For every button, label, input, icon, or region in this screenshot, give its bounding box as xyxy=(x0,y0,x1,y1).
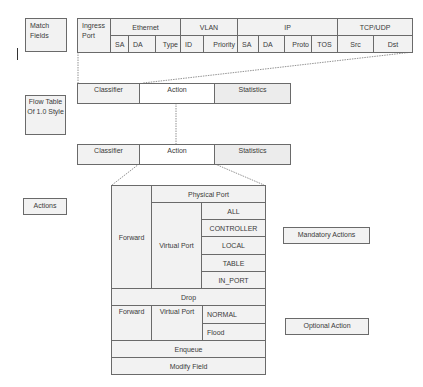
field-text: DA xyxy=(263,41,273,48)
flow-table-2-statistics: Statistics xyxy=(214,144,291,165)
match-field-ip-sa: SA xyxy=(237,35,259,53)
forward-text: Forward xyxy=(119,234,145,241)
ingress-port-text: Ingress Port xyxy=(82,21,110,41)
match-field-vlan-id: ID xyxy=(180,35,204,53)
actions-text: Actions xyxy=(34,202,57,209)
field-text: Priority xyxy=(213,41,235,48)
optional-action-text: Optional Action xyxy=(303,322,350,329)
virtual-port-option-text: Flood xyxy=(207,329,225,336)
field-text: Proto xyxy=(292,41,309,48)
field-text: SA xyxy=(242,41,251,48)
action-text: Action xyxy=(167,147,186,154)
classifier-text: Classifier xyxy=(94,86,123,93)
statistics-text: Statistics xyxy=(238,86,266,93)
match-field-eth-sa: SA xyxy=(110,35,129,53)
virtual-port-local: LOCAL xyxy=(201,236,266,255)
virtual-port-controller: CONTROLLER xyxy=(201,219,266,237)
match-fields-label: Match Fields xyxy=(25,18,67,52)
virtual-port-option-text: CONTROLLER xyxy=(210,225,258,232)
virtual-port-text: Virtual Port xyxy=(159,242,194,249)
field-text: DA xyxy=(133,41,143,48)
action-forward: Forward xyxy=(111,185,152,289)
optional-forward: Forward xyxy=(111,305,152,341)
virtual-port-option-text: LOCAL xyxy=(222,242,245,249)
field-text: ID xyxy=(185,41,192,48)
connector-right-1 xyxy=(143,52,413,83)
statistics-text: Statistics xyxy=(238,147,266,154)
field-text: Src xyxy=(350,41,361,48)
match-group-ip: IP xyxy=(237,18,338,36)
match-fields-text: Match Fields xyxy=(30,22,49,39)
virtual-port-flood: Flood xyxy=(202,323,266,341)
physical-port-text: Physical Port xyxy=(188,191,229,198)
match-field-eth-da: DA xyxy=(128,35,156,53)
vlan-text: VLAN xyxy=(200,24,218,31)
virtual-port-option-text: ALL xyxy=(227,208,239,215)
text-cursor xyxy=(17,48,18,60)
match-field-ip-proto: Proto xyxy=(284,35,312,53)
field-text: Type xyxy=(163,41,178,48)
action-enqueue: Enqueue xyxy=(111,340,266,358)
action-virtual-port: Virtual Port xyxy=(151,202,202,289)
match-group-tcp-udp: TCP/UDP xyxy=(337,18,413,36)
match-group-vlan: VLAN xyxy=(180,18,238,36)
flow-table-1-action: Action xyxy=(139,83,215,104)
field-text: TOS xyxy=(317,41,331,48)
classifier-text: Classifier xyxy=(94,147,123,154)
virtual-port-option-text: NORMAL xyxy=(207,311,237,318)
flow-table-1-classifier: Classifier xyxy=(77,83,140,104)
virtual-port-all: ALL xyxy=(201,202,266,220)
virtual-port-table: TABLE xyxy=(201,254,266,272)
enqueue-text: Enqueue xyxy=(174,346,202,353)
match-field-eth-type: Type xyxy=(155,35,181,53)
connector-left-2 xyxy=(112,164,139,185)
optional-action-label: Optional Action xyxy=(285,318,369,335)
field-text: SA xyxy=(115,41,124,48)
virtual-port-normal: NORMAL xyxy=(202,305,266,324)
drop-text: Drop xyxy=(181,294,196,301)
action-modify-field: Modify Field xyxy=(111,357,266,375)
optional-virtual-port: Virtual Port xyxy=(151,305,203,341)
ethernet-text: Ethernet xyxy=(132,24,158,31)
forward-text: Forward xyxy=(119,308,145,315)
match-field-ip-da: DA xyxy=(258,35,285,53)
match-field-src: Src xyxy=(337,35,374,53)
actions-label: Actions xyxy=(23,198,67,215)
flow-table-2-action: Action xyxy=(139,144,215,165)
virtual-port-in-port: IN_PORT xyxy=(201,271,266,289)
mandatory-actions-label: Mandatory Actions xyxy=(283,227,370,244)
mandatory-actions-text: Mandatory Actions xyxy=(298,231,356,238)
match-field-dst: Dst xyxy=(373,35,413,53)
action-physical-port: Physical Port xyxy=(151,185,266,203)
flow-table-1-statistics: Statistics xyxy=(214,83,291,104)
match-field-vlan-priority: Priority xyxy=(203,35,238,53)
action-text: Action xyxy=(167,86,186,93)
flow-table-text: Flow Table Of 1.0 Style xyxy=(27,98,64,115)
virtual-port-option-text: TABLE xyxy=(223,260,245,267)
virtual-port-text: Virtual Port xyxy=(160,308,195,315)
flow-table-2-classifier: Classifier xyxy=(77,144,140,165)
connector-right-2 xyxy=(215,164,264,185)
field-text: Dst xyxy=(388,41,399,48)
match-field-ip-tos: TOS xyxy=(311,35,338,53)
ip-text: IP xyxy=(284,24,291,31)
match-group-ingress-port: Ingress Port xyxy=(77,18,111,53)
match-group-ethernet: Ethernet xyxy=(110,18,181,36)
modify-field-text: Modify Field xyxy=(170,363,208,370)
action-drop: Drop xyxy=(111,288,266,306)
tcp-udp-text: TCP/UDP xyxy=(360,24,391,31)
flow-table-label: Flow Table Of 1.0 Style xyxy=(25,95,66,135)
virtual-port-option-text: IN_PORT xyxy=(218,277,248,284)
